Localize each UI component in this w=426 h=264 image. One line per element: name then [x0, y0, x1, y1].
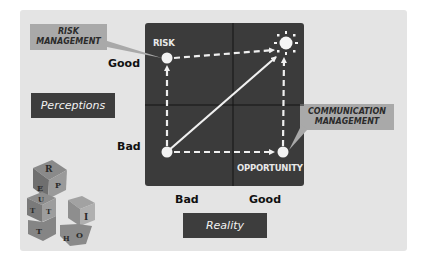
svg-text:T: T	[36, 226, 42, 236]
y-tick-bad: Bad	[117, 140, 141, 153]
x-tick-bad: Bad	[175, 193, 199, 206]
svg-text:P: P	[55, 180, 61, 190]
svg-text:R: R	[45, 164, 53, 174]
svg-text:H: H	[63, 234, 70, 243]
node-risk	[162, 53, 173, 64]
svg-text:T: T	[46, 207, 52, 216]
arrow-up-right	[283, 58, 284, 146]
communication-callout-pointer	[289, 124, 307, 150]
svg-text:O: O	[76, 230, 83, 240]
truth-blocks-icon: R E P U T T T I O H	[27, 160, 95, 246]
node-label-risk: RISK	[153, 38, 175, 48]
svg-text:T: T	[30, 206, 36, 215]
svg-text:I: I	[84, 212, 88, 222]
sun-icon	[274, 31, 298, 55]
svg-text:U: U	[38, 195, 44, 204]
node-opportunity	[278, 147, 289, 158]
y-tick-good: Good	[108, 57, 140, 70]
arrow-diagonal	[168, 57, 276, 151]
node-origin	[162, 147, 173, 158]
node-label-opportunity: OPPORTUNITY	[237, 163, 303, 173]
svg-text:E: E	[37, 183, 43, 193]
x-axis-title: Reality	[183, 213, 267, 238]
x-tick-good: Good	[249, 193, 281, 206]
y-axis-title: Perceptions	[31, 93, 115, 118]
arrow-top	[174, 50, 274, 58]
